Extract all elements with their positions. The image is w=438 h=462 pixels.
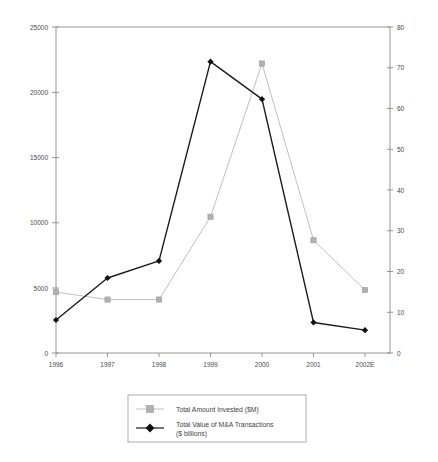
x-tick-1996: 1996 bbox=[49, 353, 64, 368]
series-line bbox=[56, 62, 365, 331]
left-tick-label: 25000 bbox=[30, 24, 48, 31]
legend-border bbox=[128, 395, 306, 442]
right-tick-label: 70 bbox=[397, 64, 405, 71]
x-tick-1999: 1999 bbox=[203, 353, 218, 368]
x-tick-1998: 1998 bbox=[152, 353, 167, 368]
x-tick-label: 2001 bbox=[306, 361, 321, 368]
left-axis-ticks: 0 5000 10000 15000 20000 25000 bbox=[30, 24, 59, 357]
right-tick-label: 30 bbox=[397, 227, 405, 234]
data-series-layer bbox=[53, 59, 368, 334]
left-tick-label: 15000 bbox=[30, 154, 48, 161]
square-marker-icon bbox=[105, 297, 110, 302]
right-tick-label: 60 bbox=[397, 105, 405, 112]
x-tick-label: 2000 bbox=[255, 361, 270, 368]
square-marker-icon bbox=[259, 61, 264, 66]
left-tick-label: 0 bbox=[44, 350, 48, 357]
x-axis-ticks: 1996 1997 1998 1999 2000 2001 bbox=[49, 353, 375, 368]
right-tick-label: 40 bbox=[397, 187, 405, 194]
x-tick-2001: 2001 bbox=[306, 353, 321, 368]
left-tick-4: 20000 bbox=[30, 89, 59, 96]
right-tick-0: 0 bbox=[387, 350, 401, 357]
square-marker-icon bbox=[156, 297, 161, 302]
left-tick-label: 20000 bbox=[30, 89, 48, 96]
x-tick-1997: 1997 bbox=[100, 353, 115, 368]
series-ma-transactions bbox=[53, 59, 368, 334]
x-tick-label: 1998 bbox=[152, 361, 167, 368]
diamond-marker-icon bbox=[362, 327, 368, 333]
chart-container: 0 5000 10000 15000 20000 25000 bbox=[0, 0, 438, 462]
dual-axis-line-chart: 0 5000 10000 15000 20000 25000 bbox=[0, 0, 438, 462]
left-tick-3: 15000 bbox=[30, 154, 59, 161]
legend-entry-invested: Total Amount Invested ($M) bbox=[136, 406, 259, 414]
series-line bbox=[56, 64, 365, 300]
square-marker-icon bbox=[147, 406, 154, 413]
square-marker-icon bbox=[362, 287, 367, 292]
right-tick-label: 10 bbox=[397, 309, 405, 316]
right-tick-label: 20 bbox=[397, 268, 405, 275]
left-tick-0: 0 bbox=[44, 350, 59, 357]
right-tick-label: 80 bbox=[397, 24, 405, 31]
x-tick-label: 1997 bbox=[100, 361, 115, 368]
legend-label-invested: Total Amount Invested ($M) bbox=[176, 406, 259, 414]
right-tick-label: 0 bbox=[397, 350, 401, 357]
left-tick-label: 10000 bbox=[30, 219, 48, 226]
chart-legend: Total Amount Invested ($M) Total Value o… bbox=[128, 395, 306, 442]
plot-frame bbox=[56, 27, 390, 353]
right-tick-label: 50 bbox=[397, 146, 405, 153]
diamond-marker-icon bbox=[156, 258, 162, 264]
x-tick-label: 2002E bbox=[356, 361, 375, 368]
left-tick-5: 25000 bbox=[30, 24, 59, 31]
legend-entry-ma: Total Value of M&A Transactions ($ billi… bbox=[136, 421, 274, 438]
square-marker-icon bbox=[53, 290, 58, 295]
x-tick-label: 1999 bbox=[203, 361, 218, 368]
diamond-marker-icon bbox=[146, 424, 155, 433]
left-tick-2: 10000 bbox=[30, 219, 59, 226]
left-tick-label: 5000 bbox=[34, 285, 49, 292]
diamond-marker-icon bbox=[310, 319, 316, 325]
x-tick-2000: 2000 bbox=[255, 353, 270, 368]
legend-label-ma-line2: ($ billions) bbox=[176, 430, 207, 438]
x-tick-label: 1996 bbox=[49, 361, 64, 368]
series-invested bbox=[53, 61, 367, 302]
legend-label-ma-line1: Total Value of M&A Transactions bbox=[176, 421, 274, 428]
square-marker-icon bbox=[208, 214, 213, 219]
square-marker-icon bbox=[311, 238, 316, 243]
x-tick-2002E: 2002E bbox=[356, 353, 375, 368]
